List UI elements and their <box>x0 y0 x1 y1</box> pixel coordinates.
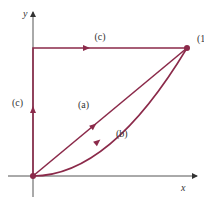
path-diagram: x y (1, 1) (c) (c) (a) (b) <box>0 0 204 211</box>
label-c-vertical: (c) <box>12 97 23 109</box>
label-c-horizontal: (c) <box>94 31 105 43</box>
y-axis-label: y <box>22 8 28 19</box>
label-a: (a) <box>78 99 89 111</box>
path-a <box>33 48 187 176</box>
arrow-c-horizontal-icon <box>83 45 90 51</box>
point-label: (1, 1) <box>197 33 204 45</box>
x-axis-label: x <box>180 182 186 193</box>
end-point <box>184 45 190 51</box>
label-b: (b) <box>116 128 128 140</box>
origin-point <box>30 173 36 179</box>
arrow-b-icon <box>93 137 102 146</box>
arrow-c-vertical-icon <box>30 106 36 113</box>
